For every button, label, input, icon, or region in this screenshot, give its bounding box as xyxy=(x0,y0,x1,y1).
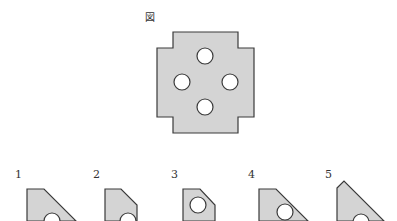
hole-circle xyxy=(174,74,190,90)
cross-plate-shape xyxy=(157,32,254,133)
option-2[interactable]: 2 xyxy=(93,168,137,221)
hole-circle xyxy=(222,74,238,90)
option-number: 4 xyxy=(248,168,255,181)
answer-options: 12345 xyxy=(15,168,384,221)
hole-circle xyxy=(277,204,293,220)
option-number: 3 xyxy=(171,168,178,181)
hole-circle xyxy=(197,99,213,115)
option-4[interactable]: 4 xyxy=(248,168,308,221)
option-number: 1 xyxy=(15,168,22,181)
figure-label: 図 xyxy=(145,12,155,23)
option-5[interactable]: 5 xyxy=(325,168,384,221)
main-figure xyxy=(157,32,254,133)
option-3[interactable]: 3 xyxy=(171,168,215,221)
option-number: 2 xyxy=(93,168,100,181)
diagram-canvas: 図 12345 xyxy=(0,0,397,221)
option-number: 5 xyxy=(325,168,332,181)
hole-circle xyxy=(190,197,206,213)
hole-circle xyxy=(197,48,213,64)
option-1[interactable]: 1 xyxy=(15,168,76,221)
